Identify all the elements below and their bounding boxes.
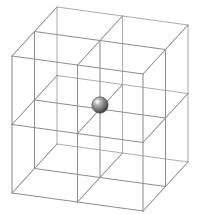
central-atom <box>92 97 108 113</box>
sphere-body <box>92 97 108 113</box>
lattice-figure <box>0 0 197 214</box>
sphere-highlight <box>94 99 101 105</box>
figure-canvas <box>0 0 197 214</box>
